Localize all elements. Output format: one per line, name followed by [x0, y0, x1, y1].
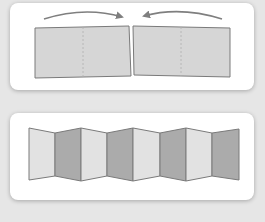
right-panel	[133, 26, 230, 77]
fold-in-half-diagram	[35, 12, 230, 78]
left-curved-arrow-icon	[44, 12, 122, 19]
accordion-panel-5	[133, 128, 160, 181]
accordion-panel-2	[55, 128, 81, 181]
accordion-panel-6	[160, 128, 186, 181]
accordion-panel-7	[186, 128, 212, 181]
diagram-canvas	[0, 0, 265, 222]
accordion-panel-4	[107, 128, 133, 181]
accordion-panel-1	[29, 128, 55, 180]
accordion-panel-8	[212, 129, 239, 180]
accordion-fold-diagram	[29, 128, 239, 181]
accordion-panel-3	[81, 128, 107, 181]
right-curved-arrow-icon	[144, 12, 222, 19]
